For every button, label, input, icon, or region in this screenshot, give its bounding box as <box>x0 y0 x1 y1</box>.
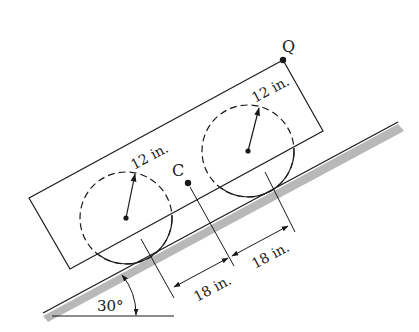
angle-label: 30° <box>97 297 124 315</box>
left-wheel-radius-label: 12 in. <box>128 140 171 173</box>
right-wheel <box>202 105 294 197</box>
right-wheel-radius-label: 12 in. <box>249 73 292 106</box>
left-wheel <box>80 172 172 264</box>
left-wheel-radius-arrow <box>126 174 135 218</box>
dimension-label-left: 18 in. <box>191 272 234 305</box>
incline-ground-shade <box>43 124 404 322</box>
center-of-mass-label: C <box>172 161 184 180</box>
cart-on-incline-diagram: 30° 12 in. 12 in. Q C 18 in. 18 in. <box>0 0 419 332</box>
point-q-label: Q <box>282 37 295 56</box>
right-wheel-radius-arrow <box>248 108 259 151</box>
center-of-mass-dot <box>185 180 191 186</box>
extension-line-c <box>190 187 234 266</box>
point-q-dot <box>280 57 286 63</box>
